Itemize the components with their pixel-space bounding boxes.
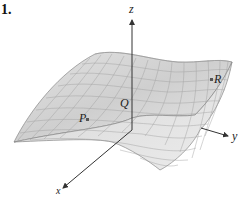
point-r-label: R	[214, 73, 221, 85]
point-p-marker	[86, 118, 89, 121]
point-p-label: P	[79, 112, 86, 124]
x-axis-label: x	[56, 186, 60, 196]
z-axis-label: z	[129, 3, 134, 15]
point-r-marker	[210, 78, 213, 81]
point-q-label: Q	[120, 97, 129, 109]
y-axis-label: y	[232, 130, 237, 142]
